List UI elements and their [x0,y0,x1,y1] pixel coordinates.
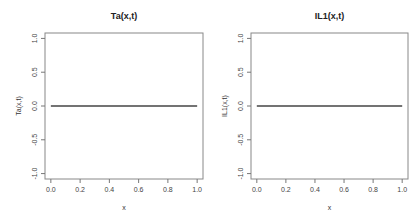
y-tick-label: -0.5 [31,134,38,146]
x-tick-label: 0.8 [163,186,173,193]
x-axis-label: x [328,204,332,211]
y-tick-label: 1.0 [31,33,38,43]
x-tick-label: 0.4 [105,186,115,193]
x-tick-label: 0.0 [46,186,56,193]
chart-panel-0: Ta(x,t)0.00.20.40.60.81.0-1.0-0.50.00.51… [15,11,203,211]
y-tick-label: -1.0 [31,167,38,179]
figure: Ta(x,t)0.00.20.40.60.81.0-1.0-0.50.00.51… [0,0,420,218]
x-tick-label: 1.0 [397,186,407,193]
y-tick-label: 0.0 [237,101,244,111]
y-tick-label: -0.5 [237,134,244,146]
x-tick-label: 0.6 [134,186,144,193]
x-tick-label: 0.0 [252,186,262,193]
y-tick-label: 0.5 [31,67,38,77]
x-tick-label: 0.2 [281,186,291,193]
y-tick-label: 0.5 [237,67,244,77]
x-tick-label: 0.2 [75,186,85,193]
x-axis-label: x [122,204,126,211]
chart-title: Ta(x,t) [111,11,137,21]
chart-title: IL1(x,t) [315,11,345,21]
x-tick-label: 0.6 [339,186,349,193]
x-tick-label: 1.0 [192,186,202,193]
x-tick-label: 0.4 [310,186,320,193]
y-axis-label: IL1(x,t) [221,95,229,117]
chart-panel-1: IL1(x,t)0.00.20.40.60.81.0-1.0-0.50.00.5… [221,11,408,211]
x-tick-label: 0.8 [368,186,378,193]
y-axis-label: Ta(x,t) [15,96,23,115]
y-tick-label: 0.0 [31,101,38,111]
y-tick-label: -1.0 [237,167,244,179]
y-tick-label: 1.0 [237,33,244,43]
